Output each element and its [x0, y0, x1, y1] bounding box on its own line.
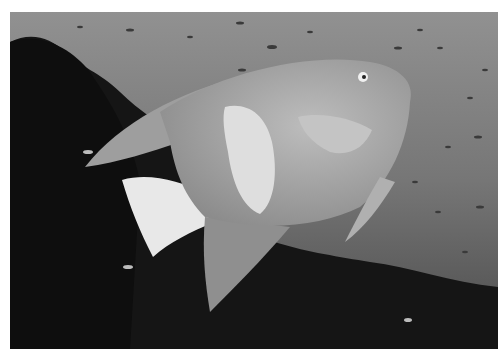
- fish-pupil: [362, 75, 366, 79]
- photo-scene: [10, 12, 498, 349]
- underwater-photo: [10, 12, 498, 349]
